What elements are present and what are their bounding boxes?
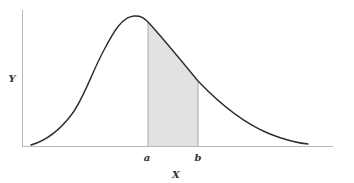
x-tick-b-label: b: [195, 153, 202, 163]
y-axis-label: Y: [8, 74, 15, 84]
x-axis-label: X: [172, 170, 180, 180]
density-chart: Y a b X: [0, 0, 354, 183]
x-tick-a-label: a: [144, 153, 150, 163]
shaded-area-a-to-b: [148, 22, 198, 146]
chart-canvas: [0, 0, 354, 183]
